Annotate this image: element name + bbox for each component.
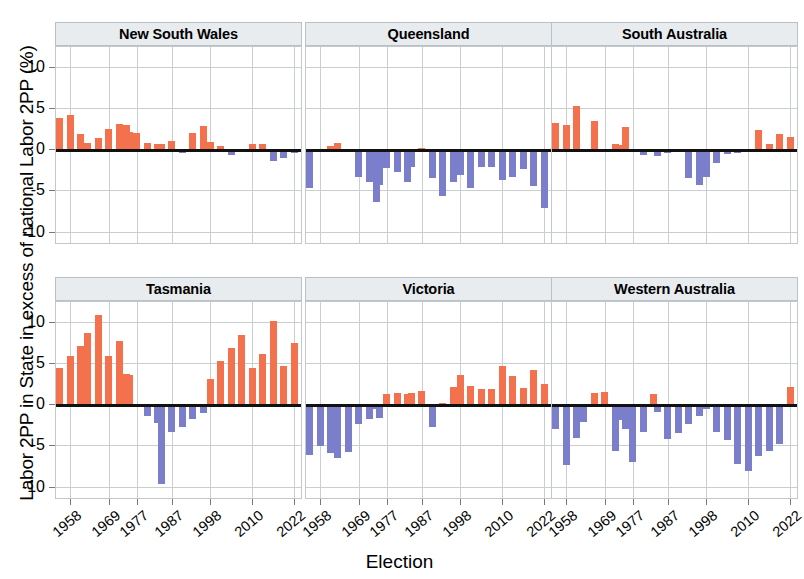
x-tick-label: 2010 xyxy=(477,507,516,544)
x-tick-label: 2010 xyxy=(723,507,762,544)
bar xyxy=(95,315,102,405)
horizontal-gridline xyxy=(56,232,301,233)
bar xyxy=(713,150,720,163)
bar xyxy=(776,134,783,150)
zero-reference-line xyxy=(56,404,301,407)
facet-panel: New South Wales xyxy=(55,22,302,244)
zero-reference-line xyxy=(306,149,551,152)
bar xyxy=(355,150,362,177)
horizontal-gridline xyxy=(56,445,301,446)
bar xyxy=(573,405,580,438)
bar xyxy=(116,341,123,405)
bar xyxy=(56,118,63,150)
horizontal-gridline xyxy=(306,487,551,488)
horizontal-gridline xyxy=(306,232,551,233)
x-tick-label: 1987 xyxy=(146,507,185,544)
vertical-gridline xyxy=(359,302,360,498)
horizontal-gridline xyxy=(306,322,551,323)
panel-strip-header: South Australia xyxy=(551,22,798,46)
bar xyxy=(766,405,773,450)
bar xyxy=(317,405,324,445)
vertical-gridline xyxy=(668,302,669,498)
bar xyxy=(77,134,84,150)
bar xyxy=(429,405,436,426)
bar xyxy=(664,405,671,439)
bar xyxy=(509,150,516,176)
bar xyxy=(105,356,112,406)
bar xyxy=(126,132,133,150)
bar xyxy=(622,405,629,429)
zero-reference-line xyxy=(552,149,797,152)
plot-area xyxy=(55,46,302,244)
bar xyxy=(734,405,741,464)
bar xyxy=(144,405,151,416)
y-tick-label: 5 xyxy=(3,99,45,117)
y-tick-mark xyxy=(49,445,55,446)
bar xyxy=(640,405,647,432)
bar xyxy=(787,137,794,150)
y-tick-mark xyxy=(49,322,55,323)
bar xyxy=(116,124,123,150)
x-tick-mark xyxy=(294,499,295,505)
y-tick-mark xyxy=(49,232,55,233)
x-tick-label: 2010 xyxy=(227,507,266,544)
horizontal-gridline xyxy=(552,67,797,68)
x-tick-mark xyxy=(566,499,567,505)
bar xyxy=(133,133,140,150)
x-tick-mark xyxy=(70,499,71,505)
vertical-gridline xyxy=(748,47,749,243)
horizontal-gridline xyxy=(306,67,551,68)
bar xyxy=(776,405,783,444)
y-tick-label: 5 xyxy=(3,354,45,372)
bar xyxy=(499,366,506,405)
plot-area xyxy=(551,46,798,244)
horizontal-gridline xyxy=(56,67,301,68)
x-tick-mark xyxy=(706,499,707,505)
bar xyxy=(675,405,682,433)
bar xyxy=(327,405,334,453)
bar xyxy=(77,346,84,405)
vertical-gridline xyxy=(706,47,707,243)
x-tick-label: 2022 xyxy=(765,507,804,544)
bar xyxy=(552,405,559,429)
panel-strip-header: Western Australia xyxy=(551,277,798,301)
panel-strip-header: Tasmania xyxy=(55,277,302,301)
y-tick-mark xyxy=(49,404,55,405)
bar xyxy=(355,405,362,424)
plot-area xyxy=(305,301,552,499)
x-tick-mark xyxy=(210,499,211,505)
bar xyxy=(291,343,298,405)
plot-area xyxy=(55,301,302,499)
bar xyxy=(530,370,537,405)
horizontal-gridline xyxy=(552,108,797,109)
vertical-gridline xyxy=(633,47,634,243)
bar xyxy=(450,150,457,182)
x-tick-label: 1958 xyxy=(45,507,84,544)
vertical-gridline xyxy=(320,47,321,243)
bar xyxy=(724,405,731,440)
bar xyxy=(601,392,608,405)
zero-reference-line xyxy=(56,149,301,152)
bar xyxy=(207,379,214,405)
bar xyxy=(488,150,495,167)
plot-area xyxy=(551,301,798,499)
vertical-gridline xyxy=(422,47,423,243)
bar xyxy=(541,384,548,405)
vertical-gridline xyxy=(172,302,173,498)
y-tick-mark xyxy=(49,190,55,191)
zero-reference-line xyxy=(552,404,797,407)
bar xyxy=(629,405,636,462)
bar xyxy=(158,405,165,484)
x-tick-mark xyxy=(605,499,606,505)
bar xyxy=(573,106,580,150)
y-tick-label: 10 xyxy=(3,58,45,76)
bar xyxy=(408,150,415,167)
bar xyxy=(713,405,720,432)
bar xyxy=(306,150,313,188)
bar xyxy=(478,389,485,406)
bar xyxy=(499,150,506,180)
bar xyxy=(189,405,196,419)
x-tick-label: 1987 xyxy=(642,507,681,544)
bar xyxy=(217,361,224,406)
